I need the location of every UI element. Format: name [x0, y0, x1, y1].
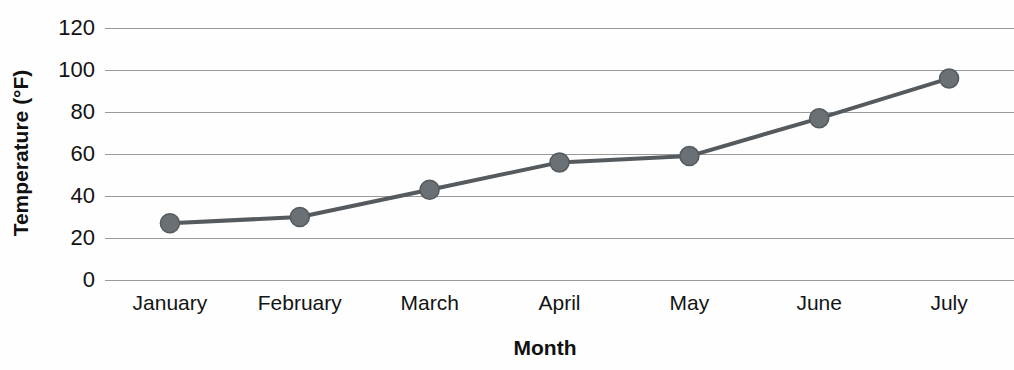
x-axis-tick-label: April — [538, 292, 580, 313]
x-axis-tick-label: July — [930, 292, 967, 313]
x-axis-tick-label: May — [670, 292, 710, 313]
x-axis-title: Month — [105, 336, 985, 360]
line-chart: Temperature (°F) 020406080100120 January… — [0, 0, 1014, 370]
data-point-marker — [290, 208, 309, 227]
data-point-marker — [160, 214, 179, 233]
x-axis-tick-label: January — [133, 292, 208, 313]
x-axis-tick-label: March — [400, 292, 458, 313]
x-axis-tick-labels: JanuaryFebruaryMarchAprilMayJuneJuly — [0, 292, 1014, 322]
data-point-marker — [550, 153, 569, 172]
series-markers — [160, 69, 958, 233]
data-point-marker — [420, 180, 439, 199]
x-axis-tick-label: June — [796, 292, 842, 313]
data-point-marker — [810, 109, 829, 128]
data-point-marker — [940, 69, 959, 88]
x-axis-tick-label: February — [258, 292, 342, 313]
data-point-marker — [680, 147, 699, 166]
series-line — [170, 78, 949, 223]
